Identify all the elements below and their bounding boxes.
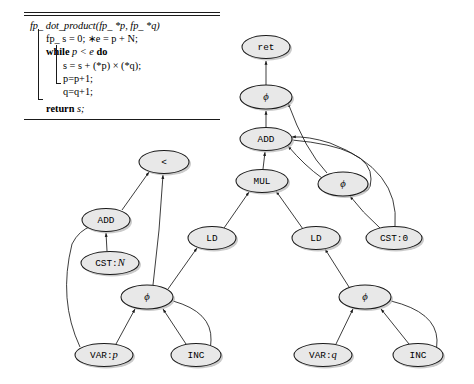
edge-cstN-add_e (106, 233, 107, 251)
node-phi-q[interactable]: ϕ (339, 285, 393, 311)
node-cst-0-label: CST:0 (380, 233, 409, 244)
node-layer: ret ϕ ADD MUL ϕ (75, 36, 445, 369)
node-ld-p-label: LD (206, 233, 218, 244)
edge-var_q-phi_q (336, 309, 353, 344)
node-ld-q[interactable]: LD (292, 227, 342, 252)
node-cst-n[interactable]: CST:N (81, 252, 141, 277)
node-add-sum[interactable]: ADD (240, 128, 294, 153)
node-less-than-label: < (161, 157, 167, 168)
node-phi-right[interactable]: ϕ (318, 172, 370, 198)
edge-var_p-add_e (67, 226, 92, 347)
node-ret-label: ret (258, 42, 275, 53)
edge-inc_p-phi_p (163, 309, 186, 344)
dataflow-graph: ret ϕ ADD MUL ϕ (0, 0, 474, 384)
node-phi-q-label: ϕ (362, 291, 368, 302)
edge-ld_q-mul (276, 191, 303, 229)
node-phi-p[interactable]: ϕ (121, 285, 175, 311)
node-ld-p[interactable]: LD (188, 227, 238, 252)
node-var-p[interactable]: VAR:p (75, 344, 135, 369)
edge-var_p-phi_p (116, 309, 135, 344)
node-cst-0[interactable]: CST:0 (366, 227, 424, 252)
edge-mul-add_s (263, 152, 265, 169)
node-cst-n-label: CST:N (95, 257, 126, 269)
node-inc-q-label: INC (410, 350, 427, 361)
node-inc-p-label: INC (188, 350, 205, 361)
edge-inc_q-phi_q (381, 309, 409, 344)
edge-phi_q-ld_q (325, 249, 349, 287)
node-var-q-label: VAR:q (309, 349, 338, 361)
node-less-than[interactable]: < (139, 151, 191, 176)
node-ld-q-label: LD (310, 233, 322, 244)
figure-canvas: fp_ dot_product(fp_ *p, fp_ *q) fp_ s = … (0, 0, 474, 384)
node-mul-label: MUL (254, 176, 271, 187)
node-var-p-label: VAR:p (90, 349, 118, 361)
node-add-end[interactable]: ADD (82, 209, 132, 234)
node-inc-q[interactable]: INC (393, 344, 445, 369)
edge-cst0-phi_r (350, 196, 380, 228)
edge-ld_p-mul (224, 192, 249, 228)
edge-phi_p-lt (153, 175, 163, 285)
node-mul[interactable]: MUL (236, 170, 290, 195)
node-ret[interactable]: ret (242, 36, 292, 61)
node-phi-right-label: ϕ (340, 178, 346, 189)
edge-add_e-lt (122, 172, 149, 210)
node-phi-p-label: ϕ (144, 291, 150, 302)
node-phi-s[interactable]: ϕ (240, 85, 294, 111)
node-var-q[interactable]: VAR:q (294, 344, 354, 369)
edge-phi_p-ld_p (168, 248, 197, 289)
node-phi-s-label: ϕ (263, 91, 269, 102)
node-add-end-label: ADD (98, 215, 115, 226)
node-add-sum-label: ADD (258, 134, 275, 145)
edge-phi_r-add_s (288, 146, 322, 178)
node-inc-p[interactable]: INC (171, 344, 223, 369)
